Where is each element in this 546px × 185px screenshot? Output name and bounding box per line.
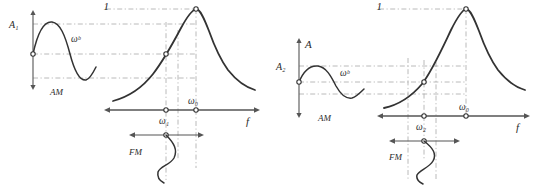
f-axis-arrow-right-right bbox=[524, 113, 530, 119]
am-amplitude-label-left: A₁ bbox=[8, 19, 19, 30]
f-axis-arrow-right-left bbox=[254, 107, 260, 113]
panel-right: A A₂ ωᵇ AM 1 ω₀ ω₂ f FM bbox=[275, 0, 530, 184]
f-axis-label-right: f bbox=[516, 121, 521, 133]
w1-label-left: ω₁ bbox=[159, 116, 169, 126]
f-axis-arrow-left-right bbox=[377, 113, 383, 119]
resonance-am-fm-figure: A₁ ωᵇ AM 1 ω₀ ω₁ f FM bbox=[0, 0, 546, 185]
am-origin-marker-left bbox=[31, 52, 35, 56]
figure-container: A₁ ωᵇ AM 1 ω₀ ω₁ f FM bbox=[0, 0, 546, 185]
fm-span-arrow-right-head-right bbox=[454, 138, 460, 144]
am-mode-label-right: AM bbox=[317, 113, 331, 123]
w1-axis-marker-left bbox=[164, 108, 168, 112]
fm-mode-label-right: FM bbox=[388, 152, 402, 162]
fm-waveform-right bbox=[417, 141, 435, 184]
am-waveform-left bbox=[33, 22, 96, 80]
w2-axis-marker-right bbox=[422, 114, 426, 118]
w0-axis-marker-left bbox=[194, 108, 198, 112]
am-mode-label-left: AM bbox=[49, 87, 63, 97]
fm-mode-label-left: FM bbox=[128, 147, 142, 157]
am-vaxis-arrow-up-left bbox=[30, 10, 35, 15]
fm-span-arrow-left-head-right bbox=[389, 138, 395, 144]
f-axis-right bbox=[377, 113, 530, 119]
am-frequency-label-left: ωᵇ bbox=[71, 34, 82, 44]
am-vaxis-arrow-down-right bbox=[296, 113, 301, 118]
w0-label-left: ω₀ bbox=[188, 96, 198, 106]
operating-point-marker-left bbox=[164, 52, 168, 56]
panel-left: A₁ ωᵇ AM 1 ω₀ ω₁ f FM bbox=[8, 0, 260, 183]
fm-span-arrow-right-head-left bbox=[198, 132, 204, 138]
f-axis-label-left: f bbox=[246, 115, 251, 127]
resonance-curve-left bbox=[113, 9, 255, 101]
resonance-peak-marker-left bbox=[194, 7, 198, 11]
fm-span-arrow-left-head-left bbox=[129, 132, 135, 138]
am-axis-label-right: A bbox=[304, 38, 312, 50]
f-axis-arrow-left-left bbox=[104, 107, 110, 113]
am-frequency-label-right: ωᵇ bbox=[340, 68, 351, 78]
am-amplitude-label-right: A₂ bbox=[275, 61, 286, 72]
f-axis-left bbox=[104, 107, 260, 113]
resonance-peak-label-right: 1 bbox=[377, 0, 383, 12]
vertical-guides-right bbox=[408, 9, 466, 180]
fm-waveform-left bbox=[158, 135, 176, 183]
resonance-curve-right bbox=[384, 9, 525, 108]
am-vaxis-arrow-down-left bbox=[30, 85, 35, 90]
w2-label-right: ω₂ bbox=[416, 122, 427, 132]
w0-axis-marker-right bbox=[464, 114, 468, 118]
resonance-peak-marker-right bbox=[464, 7, 468, 11]
vertical-guides-left bbox=[166, 9, 196, 180]
am-waveform-right bbox=[299, 66, 364, 98]
am-vaxis-arrow-up-right bbox=[296, 38, 301, 43]
operating-point-marker-right bbox=[422, 80, 426, 84]
resonance-peak-label-left: 1 bbox=[104, 0, 110, 12]
w0-label-right: ω₀ bbox=[459, 102, 469, 112]
am-origin-marker-right bbox=[297, 80, 301, 84]
